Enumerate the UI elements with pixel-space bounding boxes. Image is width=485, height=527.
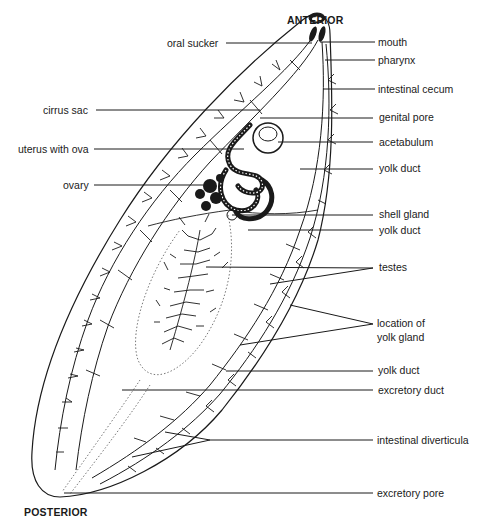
intestinal-diverticula-branches (56, 60, 338, 472)
label-location-of-yolk-gland-line1: location of (377, 317, 425, 329)
label-intestinal-cecum: intestinal cecum (378, 83, 453, 95)
excretory-duct-shape (62, 215, 232, 494)
label-uterus-with-ova: uterus with ova (18, 143, 89, 155)
pharynx-shape (307, 25, 327, 42)
body-outline (32, 14, 332, 497)
fluke-anatomy-diagram (0, 0, 485, 527)
anterior-label: ANTERIOR (287, 14, 343, 26)
label-mouth: mouth (378, 36, 407, 48)
label-yolk-duct-3: yolk duct (378, 364, 419, 376)
posterior-label: POSTERIOR (24, 506, 88, 518)
label-cirrus-sac: cirrus sac (43, 104, 88, 116)
testes-shape (154, 214, 228, 350)
label-excretory-duct: excretory duct (378, 384, 444, 396)
leader-diverticula-b (132, 440, 210, 457)
leader-testes-b (270, 268, 373, 284)
label-location-of-yolk-gland-line2: yolk gland (377, 331, 424, 343)
label-yolk-duct-1: yolk duct (379, 162, 420, 174)
label-genital-pore: genital pore (379, 111, 434, 123)
label-shell-gland: shell gland (379, 208, 429, 220)
uterus-coils (221, 125, 272, 219)
label-intestinal-diverticula: intestinal diverticula (377, 434, 469, 446)
label-testes: testes (379, 261, 407, 273)
leader-yolk-gland-b (240, 324, 373, 345)
leader-lines (64, 42, 375, 493)
acetabulum-shape (253, 123, 283, 153)
leader-testes-a (206, 267, 373, 268)
label-pharynx: pharynx (378, 54, 415, 66)
yolk-ducts (148, 210, 318, 226)
label-oral-sucker: oral sucker (167, 37, 218, 49)
label-acetabulum: acetabulum (379, 136, 433, 148)
label-excretory-pore: excretory pore (377, 487, 444, 499)
leader-yolk-gland-a (290, 305, 373, 324)
label-yolk-duct-2: yolk duct (379, 224, 420, 236)
label-ovary: ovary (63, 179, 89, 191)
